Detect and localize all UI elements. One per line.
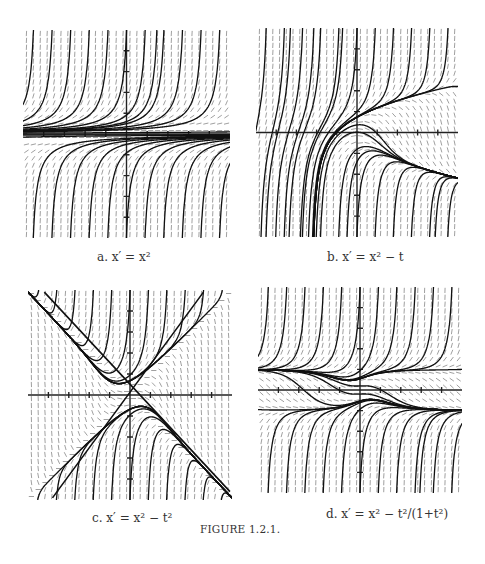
caption-c: c. x′ = x² − t² [92,511,172,525]
slope-field-panel-c [28,290,232,500]
slope-field-panel-b [256,28,458,237]
plot-b [256,28,458,237]
figure-title: FIGURE 1.2.1. [200,523,280,535]
plot-d [258,287,462,493]
caption-a: a. x′ = x² [97,250,151,264]
caption-b: b. x′ = x² − t [327,250,404,264]
slope-field-panel-d [258,287,462,493]
slope-field-panel-a [23,30,230,238]
plot-a [23,30,230,238]
plot-c [28,290,232,500]
caption-d: d. x′ = x² − t²/(1+t²) [326,507,448,521]
